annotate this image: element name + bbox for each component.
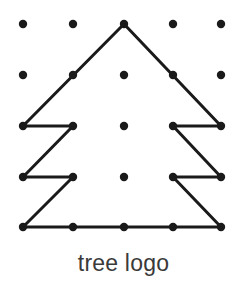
grid-dot-r3c3 [169,173,177,181]
tree-segment-left-tier1-diagonal [23,126,73,177]
figure-caption: tree logo [0,249,247,278]
grid-dot-r1c2 [120,71,128,79]
grid-dot-r4c2 [120,223,128,231]
grid-dot-r3c0 [19,173,27,181]
grid-dot-r1c4 [217,71,225,79]
grid-dot-r2c4 [217,122,225,130]
grid-dot-r1c1 [69,71,77,79]
grid-dot-r0c1 [69,20,77,28]
grid-dot-r0c3 [169,20,177,28]
grid-dot-r0c2 [120,20,128,28]
grid-dot-r4c4 [217,223,225,231]
tree-segment-right-tier2-diagonal [173,177,221,227]
grid-dot-r2c0 [19,122,27,130]
grid-dot-r4c0 [19,223,27,231]
grid-dot-r1c0 [19,71,27,79]
grid-dot-r0c4 [217,20,225,28]
grid-dot-r1c3 [169,71,177,79]
grid-dot-r4c1 [69,223,77,231]
grid-dot-r3c2 [120,173,128,181]
grid-dot-r2c3 [169,122,177,130]
tree-segment-left-tier2-diagonal [23,177,73,227]
tree-segment-right-tier1-diagonal [173,126,221,177]
grid-dot-r2c1 [69,122,77,130]
grid-dot-r3c1 [69,173,77,181]
grid-dot-r3c4 [217,173,225,181]
grid-dot-r2c2 [120,122,128,130]
grid-dot-r4c3 [169,223,177,231]
dot-grid-tree-drawing [0,0,247,286]
grid-dot-r0c0 [19,20,27,28]
tree-logo-figure: tree logo [0,0,247,286]
